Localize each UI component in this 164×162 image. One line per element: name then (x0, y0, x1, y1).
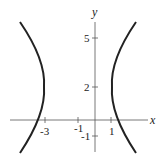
x-tick-label: 1 (109, 125, 115, 137)
x-axis-label: x (149, 113, 156, 127)
right-branch-curve (112, 22, 136, 153)
y-tick-label: -1 (81, 130, 90, 142)
x-tick-label: -3 (40, 125, 50, 137)
y-tick-label: 2 (84, 81, 90, 93)
y-axis-label: y (91, 5, 98, 19)
hyperbola-graph: y x -3 -1 1 5 2 -1 (0, 0, 164, 162)
y-tick-label: 5 (84, 32, 90, 44)
